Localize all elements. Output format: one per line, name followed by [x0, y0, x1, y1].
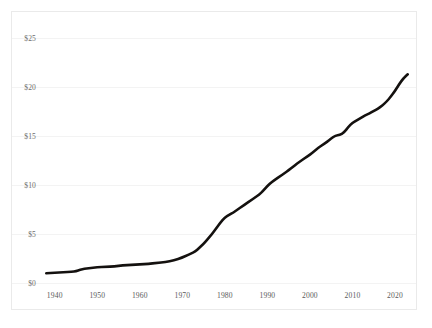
gridlines-group — [12, 38, 416, 283]
data-series-group — [46, 74, 408, 273]
chart-canvas — [0, 0, 432, 328]
x-axis-tick-label: 2020 — [387, 291, 403, 300]
chart-figure: $25$20$15$10$5$0 19401950196019701980199… — [0, 0, 432, 328]
x-axis-tick-label: 1960 — [132, 291, 148, 300]
x-axis-tick-label: 2010 — [345, 291, 361, 300]
x-axis-tick-label: 1940 — [47, 291, 63, 300]
y-axis-tick-label: $25 — [0, 34, 36, 43]
y-axis-tick-label: $10 — [0, 181, 36, 190]
x-axis-tick-label: 1980 — [217, 291, 233, 300]
y-axis-tick-label: $15 — [0, 132, 36, 141]
data-line-series — [46, 74, 408, 273]
x-axis-tick-label: 1970 — [174, 291, 190, 300]
y-axis-tick-label: $0 — [0, 279, 36, 288]
y-axis-tick-label: $5 — [0, 230, 36, 239]
x-axis-tick-label: 1990 — [259, 291, 275, 300]
x-axis-tick-label: 1950 — [89, 291, 105, 300]
y-axis-tick-label: $20 — [0, 83, 36, 92]
x-axis-tick-label: 2000 — [302, 291, 318, 300]
